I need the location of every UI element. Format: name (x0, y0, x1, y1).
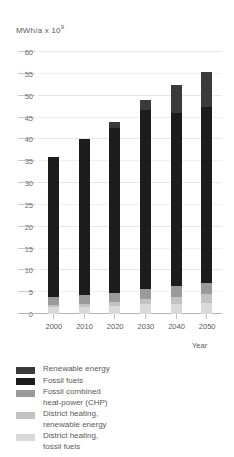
x-tick-label-2050: 2050 (187, 322, 227, 331)
bar-segment-dh-fossil (171, 304, 182, 314)
legend-item-dh-fossil[interactable]: District heating, fossil fuels (16, 431, 226, 452)
y-tick-label: 30 (25, 179, 33, 188)
bar-segment-chp (79, 295, 90, 304)
y-axis-title-base: MWh/a x 10 (16, 26, 61, 35)
gridline (38, 204, 222, 205)
gridline (38, 291, 222, 292)
bar-segment-fossil (48, 157, 59, 297)
bar-2020[interactable]: 2020 (109, 122, 120, 314)
bar-segment-chp (48, 297, 59, 305)
bar-segment-chp (171, 286, 182, 296)
legend-label: Fossil fuels (43, 376, 83, 387)
legend-item-fossil[interactable]: Fossil fuels (16, 376, 226, 387)
legend-swatch-icon (16, 390, 35, 397)
x-tick (53, 314, 54, 319)
bar-segment-dh-renewable (201, 294, 212, 303)
y-tick-label: 55 (25, 69, 33, 78)
y-tick-label: 15 (25, 244, 33, 253)
bar-segment-dh-fossil (201, 303, 212, 314)
bar-segment-renewable (201, 72, 212, 107)
gridline (38, 226, 222, 227)
y-tick-label: 50 (25, 91, 33, 100)
legend-swatch-icon (16, 412, 35, 419)
bar-2040[interactable]: 2040 (171, 85, 182, 314)
plot-area: 051015202530354045505560 200020102020203… (38, 52, 222, 314)
y-tick-label: 5 (29, 288, 33, 297)
legend-label: Renewable energy (43, 364, 110, 375)
bar-2050[interactable]: 2050 (201, 72, 212, 314)
y-tick-label: 35 (25, 157, 33, 166)
chart-legend: Renewable energyFossil fuelsFossil combi… (16, 364, 226, 453)
y-tick-label: 25 (25, 200, 33, 209)
gridline (38, 138, 222, 139)
y-tick-label: 40 (25, 135, 33, 144)
bar-segment-fossil (109, 128, 120, 293)
y-tick-label: 0 (29, 310, 33, 319)
gridline (38, 248, 222, 249)
bar-segment-chp (201, 283, 212, 294)
energy-mix-stacked-bar-chart: MWh/a x 109 051015202530354045505560 200… (0, 0, 234, 457)
bar-segment-fossil (140, 110, 151, 289)
y-tick-label: 20 (25, 222, 33, 231)
bar-segment-renewable (140, 100, 151, 110)
y-tick-label: 10 (25, 266, 33, 275)
legend-swatch-icon (16, 367, 35, 374)
x-axis-title: Year (192, 341, 207, 350)
x-tick (114, 314, 115, 319)
legend-label: Fossil combined heat-power (CHP) (43, 387, 107, 408)
bar-segment-fossil (171, 113, 182, 286)
y-tick-label: 45 (25, 113, 33, 122)
legend-label: District heating, renewable energy (43, 409, 107, 430)
y-axis-title: MWh/a x 109 (16, 26, 64, 35)
bar-segment-dh-fossil (140, 304, 151, 314)
y-tick-label: 60 (25, 48, 33, 57)
bar-segment-chp (140, 289, 151, 299)
gridline (38, 51, 222, 52)
bar-segment-fossil (79, 139, 90, 295)
legend-swatch-icon (16, 434, 35, 441)
x-tick (84, 314, 85, 319)
gridline (38, 182, 222, 183)
gridline (38, 117, 222, 118)
gridline (38, 160, 222, 161)
gridline (38, 73, 222, 74)
bar-segment-dh-fossil (109, 306, 120, 314)
bar-segment-renewable (171, 85, 182, 113)
x-tick (176, 314, 177, 319)
bar-segment-fossil (201, 107, 212, 283)
legend-item-dh-renewable[interactable]: District heating, renewable energy (16, 409, 226, 430)
legend-label: District heating, fossil fuels (43, 431, 98, 452)
gridline (38, 95, 222, 96)
bar-2030[interactable]: 2030 (140, 100, 151, 314)
x-tick (206, 314, 207, 319)
y-axis-title-exponent: 9 (61, 24, 65, 30)
gridline (38, 269, 222, 270)
bar-2000[interactable]: 2000 (48, 157, 59, 314)
legend-swatch-icon (16, 378, 35, 385)
bar-segment-dh-renewable (171, 297, 182, 304)
bar-2010[interactable]: 2010 (79, 139, 90, 314)
bar-segment-chp (109, 293, 120, 302)
legend-item-renewable[interactable]: Renewable energy (16, 364, 226, 375)
bar-segment-dh-fossil (79, 307, 90, 314)
legend-item-chp[interactable]: Fossil combined heat-power (CHP) (16, 387, 226, 408)
x-tick (145, 314, 146, 319)
